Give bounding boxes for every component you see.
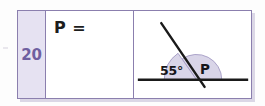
- scan-artifact: [3, 47, 8, 49]
- answer-cell[interactable]: P = °: [46, 11, 134, 98]
- problem-table: 20 P = ° 55° P: [17, 10, 252, 99]
- worksheet-page: 20 P = ° 55° P: [0, 0, 265, 106]
- problem-number: 20: [21, 46, 41, 64]
- known-angle-label: 55°: [160, 63, 183, 78]
- answer-prompt-label: P =: [54, 18, 86, 37]
- problem-number-cell: 20: [18, 11, 46, 98]
- answer-input-blank[interactable]: [86, 21, 124, 39]
- angle-figure-svg: [134, 11, 251, 98]
- diagram-cell: 55° P: [134, 11, 251, 98]
- unknown-angle-label: P: [200, 61, 210, 77]
